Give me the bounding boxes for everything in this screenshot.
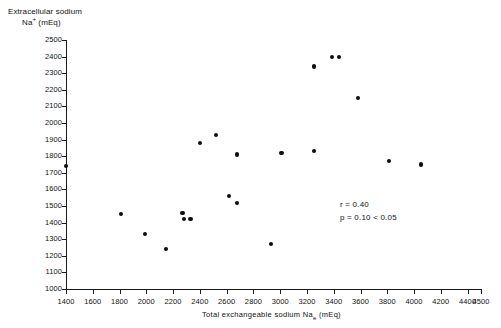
y-tick-label: 2100 <box>45 101 62 110</box>
x-tick-label: 2000 <box>138 297 155 306</box>
y-tick-label: 2200 <box>45 85 62 94</box>
y-tick-label: 1200 <box>45 251 62 260</box>
x-tick-mark-4000 <box>414 289 415 294</box>
x-tick-mark-2600 <box>227 289 228 294</box>
data-point <box>164 247 168 251</box>
x-tick-mark-4500 <box>481 289 482 294</box>
x-tick-mark-2800 <box>253 289 254 294</box>
x-tick-mark-3400 <box>334 289 335 294</box>
x-tick-label: 1800 <box>111 297 128 306</box>
y-tick-mark <box>62 73 67 74</box>
data-point <box>227 194 231 198</box>
x-tick-label: 4200 <box>432 297 449 306</box>
data-point <box>198 141 202 145</box>
y-tick-label: 1100 <box>45 267 62 276</box>
data-point <box>312 149 316 153</box>
data-point <box>356 96 360 100</box>
x-axis-title-units: (mEq) <box>317 310 341 319</box>
y-tick-mark <box>62 57 67 58</box>
y-tick-label: 1800 <box>45 151 62 160</box>
x-tick-mark-4400 <box>468 289 469 294</box>
x-tick-label: 4500 <box>472 297 489 306</box>
y-tick-label: 2400 <box>45 52 62 61</box>
data-point <box>64 164 68 168</box>
data-point <box>182 217 186 221</box>
x-tick-mark-2200 <box>173 289 174 294</box>
x-tick-mark-4200 <box>441 289 442 294</box>
y-axis-title-symbol: Na <box>22 18 32 27</box>
y-tick-mark <box>62 223 67 224</box>
x-tick-mark-1800 <box>120 289 121 294</box>
y-axis-title: Extracellular sodium Na+ (mEq) <box>8 6 82 28</box>
x-tick-mark-1400 <box>66 289 67 294</box>
plot-area: 1000110012001300140015001600170018001900… <box>66 40 481 290</box>
y-tick-mark <box>62 106 67 107</box>
x-tick-label: 1400 <box>57 297 74 306</box>
y-tick-label: 1400 <box>45 218 62 227</box>
x-tick-label: 2800 <box>245 297 262 306</box>
y-tick-label: 1600 <box>45 184 62 193</box>
y-tick-mark <box>62 90 67 91</box>
y-axis-title-units: (mEq) <box>36 18 61 27</box>
y-axis-title-line1: Extracellular sodium <box>8 7 82 16</box>
x-axis-line <box>66 289 481 290</box>
scatter-plot-figure: Extracellular sodium Na+ (mEq) 100011001… <box>0 0 501 328</box>
y-axis-title-line2: Na+ (mEq) <box>8 17 82 28</box>
y-tick-mark <box>62 189 67 190</box>
x-tick-label: 3400 <box>325 297 342 306</box>
data-point <box>143 232 147 236</box>
data-point <box>330 55 334 59</box>
data-point <box>180 211 184 215</box>
y-tick-mark <box>62 206 67 207</box>
y-tick-label: 1500 <box>45 201 62 210</box>
y-tick-label: 2000 <box>45 118 62 127</box>
data-point <box>188 217 192 221</box>
x-tick-label: 2400 <box>191 297 208 306</box>
x-axis-title: Total exchangeable sodium Nae (mEq) <box>202 310 341 319</box>
x-tick-label: 3200 <box>298 297 315 306</box>
y-tick-mark <box>62 272 67 273</box>
x-tick-label: 2600 <box>218 297 235 306</box>
data-point <box>312 64 316 68</box>
x-tick-label: 3800 <box>379 297 396 306</box>
data-point <box>214 133 218 137</box>
x-tick-label: 4000 <box>406 297 423 306</box>
y-tick-mark <box>62 40 67 41</box>
x-tick-mark-1600 <box>93 289 94 294</box>
x-tick-mark-3800 <box>387 289 388 294</box>
data-point <box>119 212 123 216</box>
x-tick-mark-2400 <box>200 289 201 294</box>
y-tick-label: 1700 <box>45 168 62 177</box>
data-point <box>279 151 283 155</box>
y-tick-mark <box>62 140 67 141</box>
x-tick-label: 1600 <box>84 297 101 306</box>
data-point <box>337 55 341 59</box>
y-tick-label: 2500 <box>45 35 62 44</box>
p-value: p = 0.10 < 0.05 <box>340 211 397 224</box>
x-axis-title-main: Total exchangeable sodium Na <box>202 310 313 319</box>
data-point <box>235 201 239 205</box>
x-tick-mark-3000 <box>280 289 281 294</box>
y-tick-mark <box>62 239 67 240</box>
y-tick-mark <box>62 123 67 124</box>
data-point <box>269 242 273 246</box>
correlation-coefficient: r = 0.40 <box>340 198 397 211</box>
data-point <box>387 159 391 163</box>
x-tick-label: 3000 <box>272 297 289 306</box>
x-tick-mark-3600 <box>361 289 362 294</box>
y-tick-mark <box>62 156 67 157</box>
y-tick-mark <box>62 173 67 174</box>
y-tick-label: 1300 <box>45 234 62 243</box>
x-tick-mark-2000 <box>146 289 147 294</box>
x-tick-label: 3600 <box>352 297 369 306</box>
data-point <box>235 152 239 156</box>
x-tick-label: 2200 <box>165 297 182 306</box>
y-tick-label: 1000 <box>45 284 62 293</box>
statistics-annotation: r = 0.40 p = 0.10 < 0.05 <box>340 198 397 224</box>
y-tick-label: 1900 <box>45 135 62 144</box>
data-point <box>419 162 423 166</box>
x-tick-mark-3200 <box>307 289 308 294</box>
y-tick-label: 2300 <box>45 68 62 77</box>
y-tick-mark <box>62 256 67 257</box>
